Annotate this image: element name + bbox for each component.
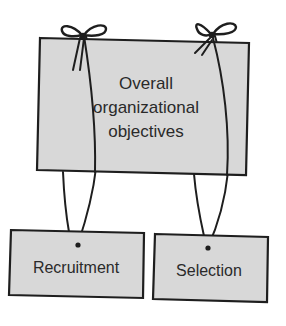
objectives-line-2: organizational <box>93 98 199 117</box>
recruitment-string-knot <box>75 242 80 247</box>
selection-string-knot <box>205 245 210 250</box>
diagram-canvas: Overall organizational objectives Recrui… <box>0 0 286 326</box>
bow-left-icon <box>62 25 106 38</box>
selection-box: Selection <box>153 234 268 302</box>
objectives-line-3: objectives <box>108 122 184 141</box>
recruitment-box: Recruitment <box>9 230 144 298</box>
bow-right-icon <box>196 23 236 37</box>
recruitment-label: Recruitment <box>33 259 120 276</box>
objectives-line-1: Overall <box>119 74 173 93</box>
selection-label: Selection <box>176 262 242 279</box>
